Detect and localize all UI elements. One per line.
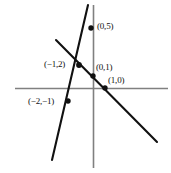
point-label-1-0: (1,0) [108,76,124,85]
point-dot-0-5 [88,25,93,30]
point-dot-neg2-neg1 [65,98,70,103]
point-label-neg1-2: (−1,2) [44,60,65,69]
graph-canvas [0,0,171,173]
point-label-neg2-neg1: (−2,−1) [28,97,54,106]
point-label-0-1: (0,1) [96,63,112,72]
shallow-line [56,40,157,142]
point-label-0-5: (0,5) [97,22,113,31]
coordinate-graph-figure: (0,5) (−1,2) (0,1) (1,0) (−2,−1) [0,0,171,173]
point-dot-0-1 [90,73,95,78]
point-dot-neg1-2 [76,62,82,68]
point-dot-1-0 [102,85,107,90]
steep-line [52,5,88,160]
